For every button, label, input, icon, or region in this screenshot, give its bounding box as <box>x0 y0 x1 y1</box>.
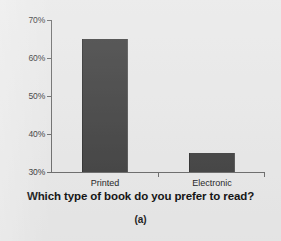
y-axis-tick-label: 30% <box>29 167 45 177</box>
y-axis-tick <box>47 172 52 173</box>
x-axis-end-tick <box>264 172 265 177</box>
chart-title: Which type of book do you prefer to read… <box>0 190 281 202</box>
y-axis-tick <box>47 58 52 59</box>
y-axis-tick-label: 70% <box>29 15 45 25</box>
y-axis-tick <box>47 134 52 135</box>
figure-panel: 30%40%50%60%70% PrintedElectronic Which … <box>0 0 281 241</box>
y-axis-tick-label: 50% <box>29 91 45 101</box>
y-axis-tick <box>47 20 52 21</box>
y-axis-tick <box>47 96 52 97</box>
bar-electronic <box>189 153 235 172</box>
x-axis-tick <box>158 172 159 177</box>
y-axis-tick-label: 60% <box>29 53 45 63</box>
figure-caption: (a) <box>0 214 281 225</box>
plot-area: 30%40%50%60%70% PrintedElectronic <box>51 20 265 172</box>
y-axis-tick-label: 40% <box>29 129 45 139</box>
x-axis-category-label: Electronic <box>192 178 232 188</box>
x-axis-category-label: Printed <box>91 178 120 188</box>
bar-printed <box>82 39 128 172</box>
